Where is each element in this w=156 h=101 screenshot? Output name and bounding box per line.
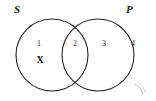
set-s-circle (16, 19, 88, 91)
set-p-circle (62, 19, 134, 91)
region-number-4: 4 (128, 40, 138, 48)
region-number-2: 2 (70, 40, 80, 48)
region-1-x-mark: X (34, 55, 46, 65)
set-label-s: S (14, 4, 20, 15)
region-number-3: 3 (99, 40, 109, 48)
set-label-p: P (126, 4, 133, 15)
venn-diagram-canvas (0, 0, 156, 101)
region-number-1: 1 (34, 40, 44, 48)
scanner-smudge-artifact-secondary (137, 82, 145, 93)
venn-diagram: S P 1 2 3 4 X (0, 0, 156, 101)
